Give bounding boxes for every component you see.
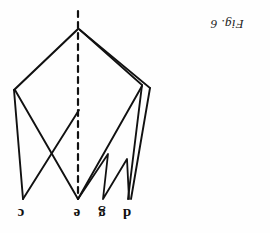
figure-page: Fig. 6 c e g d [0, 0, 270, 233]
vertex-label-g: g [93, 205, 111, 223]
vertex-label-e: e [68, 205, 86, 223]
vertex-label-d: d [118, 205, 136, 223]
vertex-label-c: c [12, 205, 30, 223]
figure-caption: Fig. 6 [196, 13, 258, 35]
